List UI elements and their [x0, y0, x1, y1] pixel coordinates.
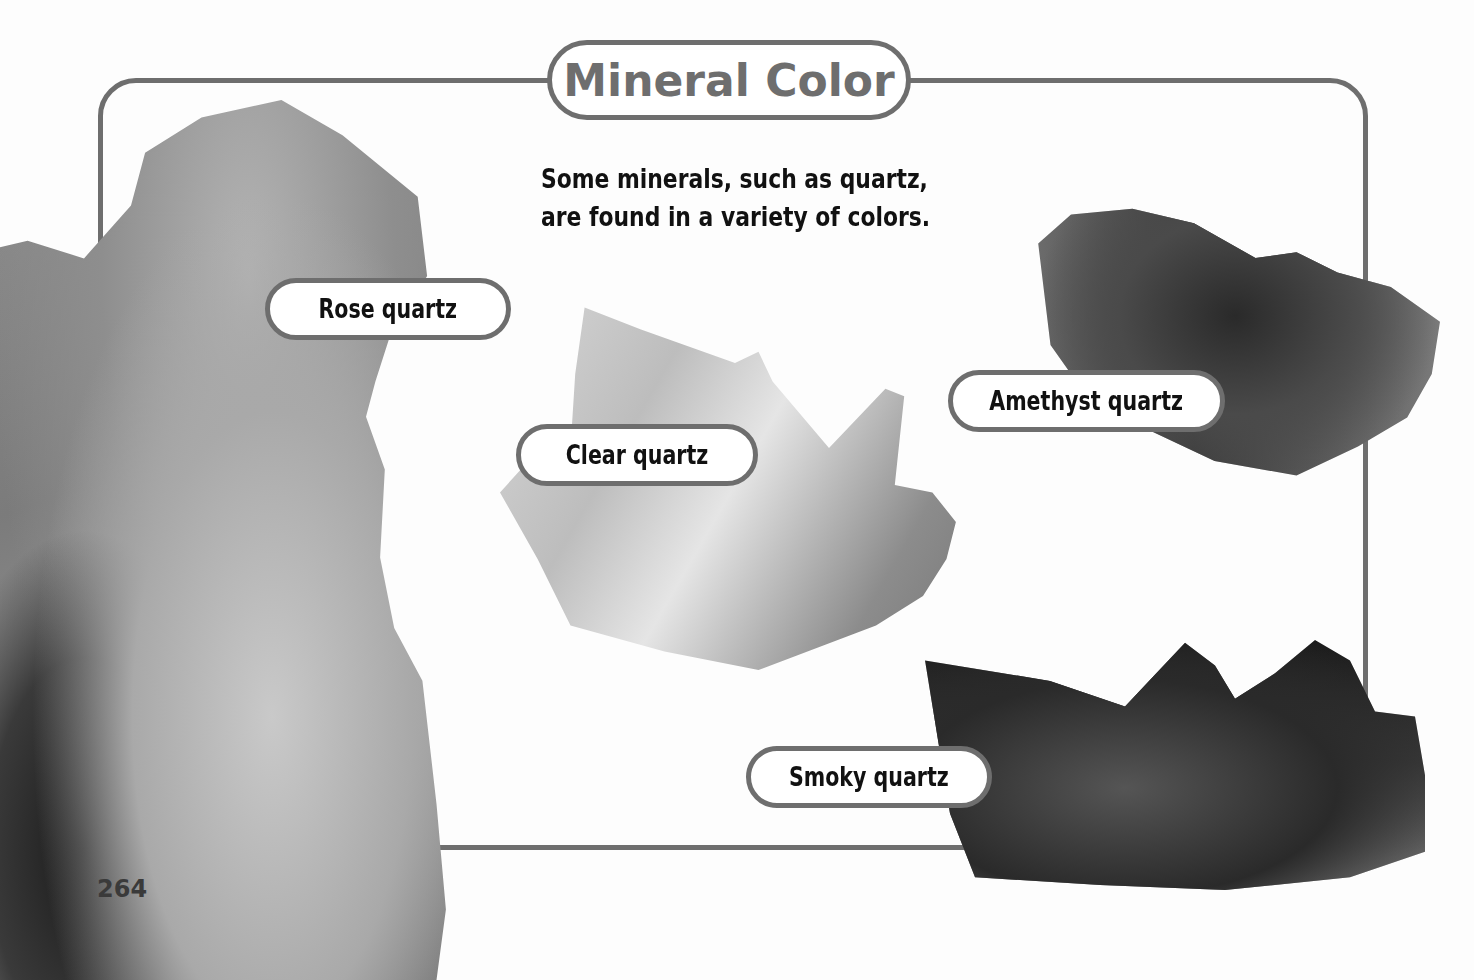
intro-line-2: are found in a variety of colors. — [541, 198, 937, 236]
smoky-quartz-label: Smoky quartz — [746, 746, 992, 808]
page-number: 264 — [97, 875, 147, 903]
page-title-text: Mineral Color — [563, 55, 894, 106]
clear-quartz-label-text: Clear quartz — [566, 440, 709, 470]
clear-quartz-label: Clear quartz — [516, 424, 758, 486]
amethyst-quartz-label: Amethyst quartz — [948, 370, 1225, 432]
rose-quartz-label: Rose quartz — [265, 278, 511, 340]
amethyst-quartz-label-text: Amethyst quartz — [990, 386, 1184, 416]
intro-line-1: Some minerals, such as quartz, — [541, 160, 937, 198]
intro-text: Some minerals, such as quartz, are found… — [541, 160, 937, 236]
page-title: Mineral Color — [547, 40, 911, 120]
rose-quartz-label-text: Rose quartz — [319, 294, 458, 324]
smoky-quartz-photo — [925, 635, 1425, 890]
smoky-quartz-label-text: Smoky quartz — [789, 762, 949, 792]
